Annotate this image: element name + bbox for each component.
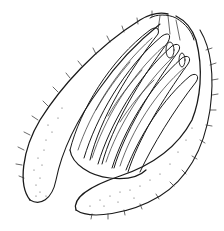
inner-florets — [70, 28, 198, 179]
botanical-drawing — [0, 0, 224, 231]
bottom-outer-bract — [75, 16, 218, 219]
illustration-canvas — [0, 0, 224, 231]
